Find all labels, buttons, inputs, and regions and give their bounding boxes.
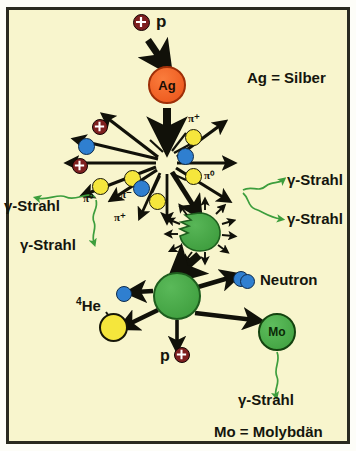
label-helium-symbol: He bbox=[82, 297, 101, 314]
gamma-label-mo: γ-Strahl bbox=[238, 392, 294, 407]
cascade-pion-plus-left bbox=[149, 193, 166, 210]
legend-neutron-dot bbox=[240, 274, 255, 289]
cascade-pion-minus-right bbox=[177, 148, 194, 165]
nucleus-mo: Mo bbox=[258, 313, 296, 351]
incident-proton-arrow bbox=[148, 40, 163, 62]
product-proton bbox=[174, 347, 190, 363]
gamma-label-left-lower: γ-Strahl bbox=[20, 237, 76, 252]
cascade-pion-plus-right bbox=[185, 129, 202, 146]
product-helium-4 bbox=[99, 313, 128, 342]
label-helium-4: 4He bbox=[76, 297, 101, 313]
cascade-pion-zero-right bbox=[185, 168, 202, 185]
label-proton-emitted: p bbox=[160, 348, 170, 364]
gamma-label-right-upper: γ-Strahl bbox=[287, 172, 343, 187]
label-neutron: Neutron bbox=[260, 272, 318, 287]
incident-proton-label: p bbox=[156, 13, 166, 30]
cascade-proton-1 bbox=[92, 119, 108, 135]
gamma-ray-right-lower bbox=[243, 193, 281, 219]
gamma-label-left-upper: γ-Strahl bbox=[4, 198, 60, 213]
cascade-proton-2 bbox=[72, 158, 88, 174]
nucleus-ag: Ag bbox=[148, 66, 186, 104]
product-neutron-left bbox=[116, 286, 132, 302]
pion-label-zero-right: π⁰ bbox=[204, 170, 214, 181]
gamma-ray-left-lower bbox=[93, 200, 97, 243]
gamma-label-right-lower: γ-Strahl bbox=[287, 211, 343, 226]
cascade-pion-zero-left bbox=[92, 178, 109, 195]
legend-molybdenum: Mo = Molybdän bbox=[214, 424, 323, 439]
legend-silver: Ag = Silber bbox=[247, 70, 326, 85]
gamma-ray-mo bbox=[276, 352, 279, 396]
pion-label-plus-right: π⁺ bbox=[188, 113, 200, 124]
pion-label-plus-left: π⁺ bbox=[114, 212, 126, 223]
incident-proton bbox=[133, 14, 150, 31]
nucleus-ag-label: Ag bbox=[158, 78, 175, 93]
excited-nucleus bbox=[168, 201, 233, 261]
cascade-neutron-1 bbox=[78, 138, 95, 155]
nucleus-mo-label: Mo bbox=[268, 325, 285, 339]
pion-label-minus: π⁻ bbox=[120, 189, 132, 200]
diagram-root: Ag Mo p Ag = Silber Mo = Molybdän bbox=[0, 0, 356, 451]
pion-label-zero-left: π⁰ bbox=[83, 193, 93, 204]
nucleus-residual bbox=[153, 272, 201, 320]
cascade-pion-minus-left bbox=[133, 180, 150, 197]
excited-to-residual-arrow bbox=[180, 255, 199, 272]
gamma-ray-right-upper bbox=[243, 180, 283, 190]
